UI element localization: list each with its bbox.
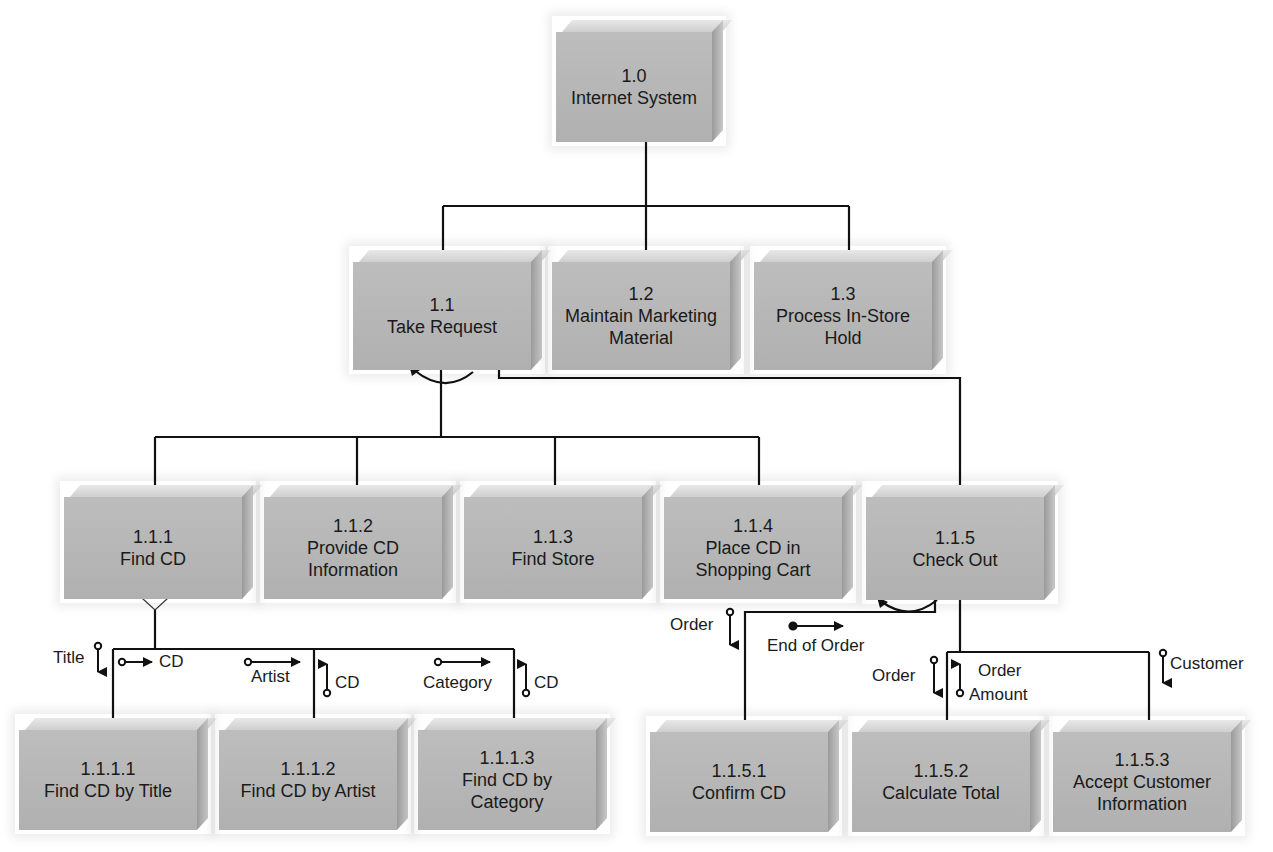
module-1-1-2[interactable]: 1.1.2 Provide CD Information <box>264 497 442 599</box>
module-1-2[interactable]: 1.2 Maintain Marketing Material <box>552 262 730 370</box>
flag-label-end-of-order: End of Order <box>767 636 864 656</box>
module-1-1-5-1[interactable]: 1.1.5.1 Confirm CD <box>650 732 828 832</box>
module-1-1-1-1[interactable]: 1.1.1.1 Find CD by Title <box>19 730 197 830</box>
couple-label-order-confirm: Order <box>670 615 713 635</box>
module-label-line2: Hold <box>824 327 861 349</box>
module-1-0[interactable]: 1.0 Internet System <box>556 32 712 142</box>
module-number: 1.1.5.3 <box>1114 749 1169 771</box>
module-1-1-5-2[interactable]: 1.1.5.2 Calculate Total <box>852 732 1030 832</box>
module-label: Calculate Total <box>882 782 1000 804</box>
module-label: Find CD <box>120 548 186 570</box>
module-1-1-1-3[interactable]: 1.1.1.3 Find CD by Category <box>418 730 596 830</box>
module-number: 1.0 <box>621 65 646 87</box>
module-label-line2: Shopping Cart <box>695 559 810 581</box>
module-label: Place CD in <box>705 537 800 559</box>
module-number: 1.1.1.1 <box>80 758 135 780</box>
module-1-3[interactable]: 1.3 Process In-Store Hold <box>754 262 932 370</box>
module-label: Check Out <box>912 549 997 571</box>
couple-label-cd-category: CD <box>534 673 559 693</box>
module-label: Find Store <box>511 548 594 570</box>
module-number: 1.3 <box>830 283 855 305</box>
module-number: 1.1.1.2 <box>280 758 335 780</box>
module-label: Internet System <box>571 87 697 109</box>
module-number: 1.1.5.2 <box>913 760 968 782</box>
module-1-1-5-3[interactable]: 1.1.5.3 Accept Customer Information <box>1053 732 1231 832</box>
module-number: 1.1 <box>429 294 454 316</box>
module-number: 1.1.3 <box>533 526 573 548</box>
module-1-1-3[interactable]: 1.1.3 Find Store <box>464 497 642 599</box>
module-1-1-1-2[interactable]: 1.1.1.2 Find CD by Artist <box>219 730 397 830</box>
couple-label-category: Category <box>423 673 492 693</box>
module-label-line2: Material <box>609 327 673 349</box>
module-1-1-1[interactable]: 1.1.1 Find CD <box>64 497 242 599</box>
module-1-1-5[interactable]: 1.1.5 Check Out <box>866 497 1044 600</box>
module-label: Take Request <box>387 316 497 338</box>
module-label-line2: Category <box>470 791 543 813</box>
module-label: Process In-Store <box>776 305 910 327</box>
couple-label-cd-artist: CD <box>335 673 360 693</box>
couple-label-order-amount-line1: Order <box>978 661 1021 681</box>
module-number: 1.1.5.1 <box>711 760 766 782</box>
module-number: 1.2 <box>628 283 653 305</box>
couple-label-title: Title <box>53 648 85 668</box>
module-1-1-4[interactable]: 1.1.4 Place CD in Shopping Cart <box>664 497 842 599</box>
module-number: 1.1.5 <box>935 527 975 549</box>
module-label-line2: Information <box>308 559 398 581</box>
couple-label-customer: Customer <box>1170 654 1244 674</box>
couple-label-cd-title: CD <box>159 652 184 672</box>
module-label: Confirm CD <box>692 782 786 804</box>
module-label: Find CD by <box>462 769 552 791</box>
module-number: 1.1.1.3 <box>479 747 534 769</box>
couple-label-order-calc: Order <box>872 666 915 686</box>
couple-label-artist: Artist <box>251 667 290 687</box>
module-label: Accept Customer <box>1073 771 1211 793</box>
module-number: 1.1.4 <box>733 515 773 537</box>
module-label: Provide CD <box>307 537 399 559</box>
module-label-line2: Information <box>1097 793 1187 815</box>
module-label: Find CD by Title <box>44 780 172 802</box>
couple-label-order-amount-line2: Amount <box>969 685 1028 705</box>
module-number: 1.1.1 <box>133 526 173 548</box>
module-1-1[interactable]: 1.1 Take Request <box>353 262 531 370</box>
module-number: 1.1.2 <box>333 515 373 537</box>
module-label: Find CD by Artist <box>240 780 375 802</box>
module-label: Maintain Marketing <box>565 305 717 327</box>
